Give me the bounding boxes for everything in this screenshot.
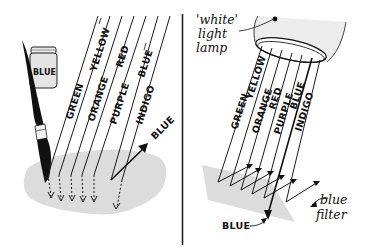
- left-panel: BLUE: [22, 16, 176, 214]
- jar-label: BLUE: [33, 68, 56, 77]
- svg-text:lamp: lamp: [196, 40, 227, 55]
- svg-text:blue: blue: [320, 192, 347, 207]
- label-blue: BLUE: [135, 48, 154, 78]
- left-ray-labels: GREEN YELLOW ORANGE RED PURPLE BLUE INDI…: [63, 26, 176, 142]
- transmitted-label: BLUE: [222, 218, 267, 231]
- lamp-label: 'white' light lamp: [196, 12, 238, 55]
- right-panel: 'white' light lamp: [196, 12, 348, 231]
- svg-text:'white': 'white': [196, 12, 238, 27]
- light-colour-diagram: BLUE: [0, 0, 366, 250]
- svg-text:filter: filter: [315, 207, 348, 222]
- filter-label: blue filter: [310, 192, 348, 222]
- blue-filter: [202, 165, 295, 222]
- label-red: RED: [113, 44, 130, 69]
- svg-text:light: light: [198, 26, 228, 41]
- label-yellow: YELLOW: [87, 26, 112, 74]
- svg-text:BLUE: BLUE: [222, 220, 250, 231]
- label-reflected-blue: BLUE: [149, 114, 177, 142]
